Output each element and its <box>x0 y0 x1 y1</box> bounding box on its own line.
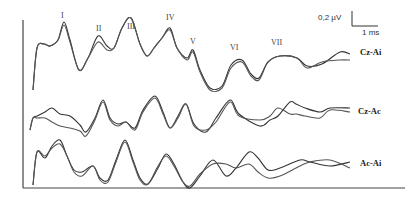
peak-label-VII: VII <box>271 38 282 47</box>
peak-label-II: II <box>96 24 101 33</box>
scale-amplitude-label: 0,2 µV <box>318 13 341 22</box>
channel-label-ac-ai: Ac-Ai <box>360 158 381 168</box>
peak-label-I: I <box>61 11 64 20</box>
channel-label-cz-ac: Cz-Ac <box>358 106 381 116</box>
peak-label-IV: IV <box>166 13 174 22</box>
waveform-cz-ac-trace-2 <box>30 98 350 136</box>
channel-label-cz-ai: Cz-Ai <box>360 47 381 57</box>
peak-label-VI: VI <box>230 43 238 52</box>
scale-time-label: 1 ms <box>362 28 379 37</box>
peak-label-III: III <box>127 22 135 31</box>
scale-bar <box>352 11 378 26</box>
peak-label-V: V <box>190 37 196 46</box>
waveform-ac-ai-trace-1 <box>33 140 350 189</box>
waveform-cz-ai-trace-2 <box>33 17 350 91</box>
waveform-ac-ai-trace-2 <box>33 142 350 186</box>
abr-waveform-plot <box>0 0 412 203</box>
